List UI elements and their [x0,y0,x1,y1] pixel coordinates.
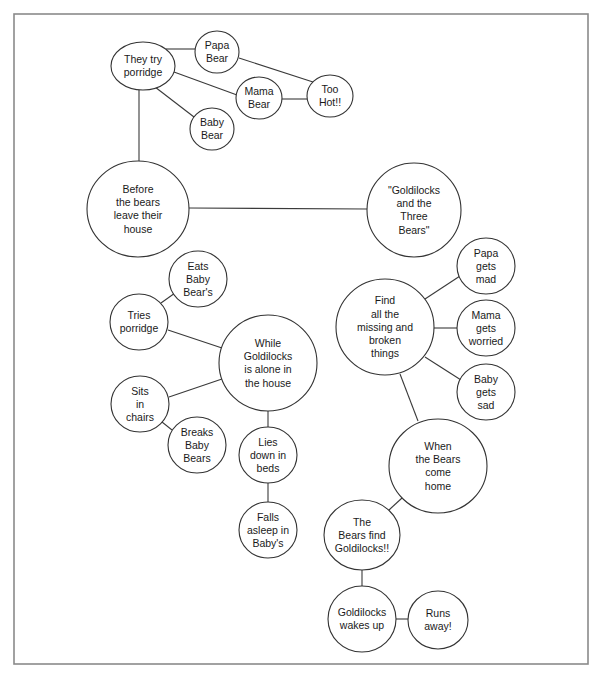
bubble-label-line: While [255,337,281,349]
bubble-runs: Runsaway! [408,591,468,649]
edge-before-title [189,208,367,209]
edge-try-baby [155,87,194,117]
bubble-label-line: Mama [244,85,273,97]
bubble-label-line: house [124,223,153,235]
bubble-try: They tryporridge [111,42,175,90]
bubble-hot: TooHot!! [307,75,353,117]
bubble-label-line: wakes up [339,619,385,631]
bubble-label-line: The [353,516,371,528]
bubble-label-line: things [371,347,399,359]
edge-find-when [400,374,418,421]
goldilocks-bubble-map: "Goldilocksand theThreeBears"Beforethe b… [0,0,599,676]
bubble-label-line: Bear [206,52,229,64]
bubble-label-line: in [136,398,144,410]
bubble-label-line: porridge [120,322,159,334]
bubble-label-line: gets [476,386,496,398]
bubble-label-line: Before [123,183,154,195]
bubble-label-line: Mama [471,309,500,321]
bubble-label-line: Bears [183,452,210,464]
bubble-label-line: Falls [257,511,279,523]
edge-sits-breaks [162,422,172,430]
bubble-tries: Triesporridge [110,294,168,350]
bubble-label-line: gets [476,260,496,272]
edge-try-mama [174,72,237,95]
bubble-label-line: down in [250,449,286,461]
edge-tries-eats [161,293,175,303]
bubble-while: WhileGoldilocksis alone inthe house [219,315,317,411]
bubble-lies: Liesdown inbeds [239,427,297,483]
bubble-label-line: Papa [474,247,499,259]
bubble-baby: BabyBear [190,108,234,150]
bubble-babysad: Babygetssad [457,364,515,420]
bubble-nodes: "Goldilocksand theThreeBears"Beforethe b… [87,31,515,652]
bubble-label-line: Baby [185,439,210,451]
bubble-label-line: worried [468,335,504,347]
bubble-label-line: broken [369,334,401,346]
bubble-label-line: Breaks [181,426,214,438]
bubble-label-line: Baby [186,273,211,285]
bubble-sits: Sitsinchairs [111,376,169,432]
bubble-label-line: gets [476,322,496,334]
bubble-label-line: Papa [205,39,230,51]
bubble-label-line: all the [371,308,399,320]
bubble-title: "Goldilocksand theThreeBears" [367,163,461,257]
edge-sits-while [169,379,222,397]
bubble-label-line: Sits [131,385,149,397]
bubble-label-line: Baby [474,373,499,385]
bubble-label-line: Eats [187,260,208,272]
bubble-label-line: Bear [201,129,224,141]
bubble-label-line: Goldilocks [244,350,292,362]
bubble-when: Whenthe Bearscomehome [389,419,487,513]
bubble-bearsfind: TheBears findGoldilocks!! [324,500,400,570]
bubble-label-line: Bears" [398,224,429,236]
bubble-label-line: the house [245,377,291,389]
edge-find-papamad [425,276,460,299]
bubble-label-line: the Bears [416,453,461,465]
bubble-falls: Fallsasleep inBaby's [239,502,297,558]
bubble-label-line: come [425,466,451,478]
bubble-label-line: sad [478,399,495,411]
bubble-label-line: Runs [426,607,451,619]
bubble-label-line: porridge [124,66,163,78]
bubble-label-line: is alone in [244,363,291,375]
bubble-label-line: Tries [128,309,151,321]
bubble-label-line: chairs [126,411,154,423]
bubble-label-line: Hot!! [319,96,341,108]
bubble-label-line: home [425,480,451,492]
bubble-label-line: Bear's [183,286,212,298]
bubble-papa: PapaBear [195,31,239,73]
bubble-label-line: asleep in [247,524,289,536]
bubble-label-line: Too [322,83,339,95]
bubble-label-line: When [424,440,452,452]
bubble-label-line: missing and [357,321,413,333]
bubble-label-line: They try [124,53,163,65]
bubble-label-line: Baby [200,116,225,128]
edge-when-bearsfind [389,498,402,510]
bubble-label-line: Bear [248,98,271,110]
bubble-wakes: Goldilockswakes up [328,586,396,652]
bubble-mamaworried: Mamagetsworried [457,300,515,356]
bubble-label-line: the bears [116,196,160,208]
bubble-mama: MamaBear [236,77,282,119]
bubble-eats: EatsBabyBear's [169,251,227,307]
bubble-find: Findall themissing andbrokenthings [336,279,434,375]
bubble-before: Beforethe bearsleave theirhouse [87,161,189,257]
bubble-label-line: and the [396,197,431,209]
bubble-label-line: "Goldilocks [388,184,440,196]
bubble-label-line: Baby's [252,537,283,549]
bubble-label-line: away! [424,620,451,632]
edge-find-babysad [425,357,461,380]
bubble-label-line: Lies [258,436,277,448]
bubble-label-line: Goldilocks [338,606,386,618]
bubble-label-line: Goldilocks!! [335,542,389,554]
bubble-label-line: Three [400,210,428,222]
bubble-label-line: leave their [114,209,163,221]
edge-tries-while [168,330,222,348]
bubble-papamad: Papagetsmad [457,238,515,294]
bubble-label-line: Find [375,294,396,306]
bubble-breaks: BreaksBabyBears [168,417,226,473]
bubble-label-line: Bears find [338,529,385,541]
bubble-label-line: beds [257,462,280,474]
bubble-label-line: mad [476,273,497,285]
